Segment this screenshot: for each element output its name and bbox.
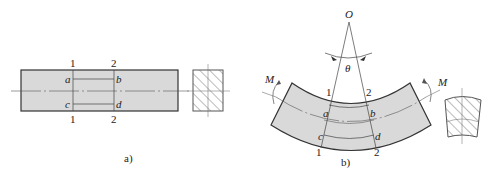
beam-rect [21,70,178,111]
point-c: c [65,98,70,110]
caption-a: a) [124,152,133,165]
label-1-top: 1 [70,57,76,69]
label-2-top: 2 [366,86,372,98]
label-2-bottom: 2 [374,146,380,158]
point-d: d [116,98,122,110]
moment-left-label: M [264,73,275,85]
label-1-bottom: 1 [316,146,322,158]
point-d: d [375,130,381,142]
label-2-top: 2 [111,57,117,69]
label-1-bottom: 1 [70,113,76,125]
point-c: c [318,130,323,142]
cross-section-rect [187,64,230,117]
point-b: b [370,107,376,119]
caption-b: b) [341,156,351,169]
figure-a-straight-beam: 1 2 1 2 a b c d a) [11,57,230,165]
point-a: a [323,107,329,119]
figure-b-bent-beam: O θ M M 1 2 1 2 a b c d b) [262,8,481,169]
point-a: a [65,73,71,85]
label-2-bottom: 2 [111,113,117,125]
center-O: O [345,8,353,20]
beam-bending-diagram: 1 2 1 2 a b c d a) O θ [0,0,498,180]
deformed-cross-section [445,88,481,144]
label-1-top: 1 [326,86,332,98]
moment-right-label: M [437,76,448,88]
moment-arrow-left [273,82,279,104]
curved-beam [271,83,431,151]
point-b: b [116,73,122,85]
angle-theta: θ [345,62,351,74]
